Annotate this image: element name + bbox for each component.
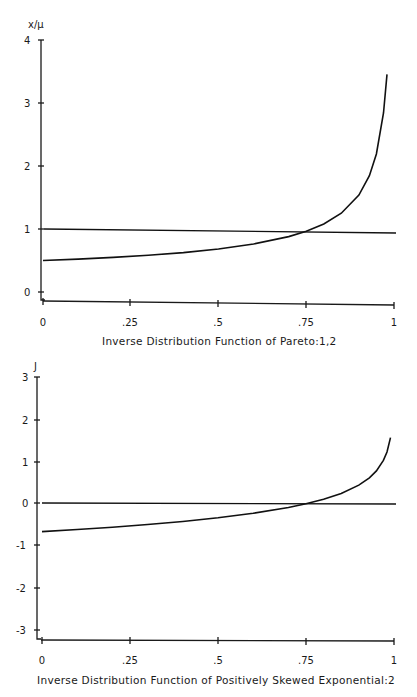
svg-text:.25: .25 [122,317,138,328]
chart-pareto: x/μ 4 3 2 1 0 0 .25 [24,19,397,347]
figure: x/μ 4 3 2 1 0 0 .25 [0,0,417,697]
svg-text:4: 4 [24,35,30,46]
svg-text:-2: -2 [16,583,26,594]
x-tick-labels: 0 .25 .5 .75 1 [39,655,397,666]
mean-reference-line [44,229,396,233]
svg-text:0: 0 [39,655,45,666]
y-axis-label: J [33,361,37,372]
svg-text:3: 3 [24,98,30,109]
svg-text:.25: .25 [122,655,138,666]
svg-text:.5: .5 [213,317,223,328]
x-axis-title: Inverse Distribution Function of Pareto:… [102,335,337,347]
svg-text:.75: .75 [298,317,314,328]
x-axis-title: Inverse Distribution Function of Positiv… [37,674,395,686]
svg-text:0: 0 [22,498,28,509]
svg-text:-3: -3 [16,625,26,636]
chart-exponential: J 3 2 1 0 -1 -2 -3 0 [16,361,397,686]
x-ticks [43,298,394,309]
svg-text:2: 2 [24,161,30,172]
svg-text:1: 1 [22,457,28,468]
svg-text:3: 3 [22,372,28,383]
svg-text:1: 1 [391,317,397,328]
y-axis-label: x/μ [28,19,44,30]
exponential-curve [42,438,391,532]
zero-reference-line [42,503,396,504]
svg-text:0: 0 [24,287,30,298]
svg-text:-1: -1 [16,540,26,551]
svg-text:1: 1 [24,224,30,235]
svg-text:2: 2 [22,415,28,426]
svg-text:.5: .5 [213,655,223,666]
y-axis [37,377,41,639]
svg-text:.75: .75 [298,655,314,666]
y-tick-labels: 4 3 2 1 0 [24,35,30,298]
svg-text:1: 1 [391,655,397,666]
x-tick-labels: 0 .25 .5 .75 1 [40,317,397,328]
svg-text:0: 0 [40,317,46,328]
y-tick-labels: 3 2 1 0 -1 -2 -3 [16,372,28,636]
